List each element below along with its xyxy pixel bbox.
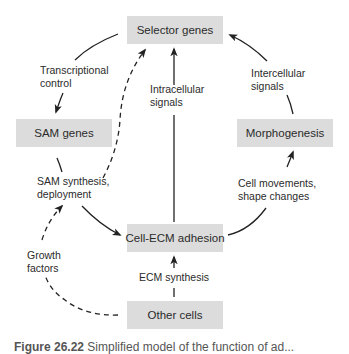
label-intercellular-signals: Intercellular signals [251,67,305,93]
dashed-growth-to-synthesis [42,206,62,240]
arrow-to-morphogenesis [287,152,293,167]
line-adhesion-to-cell-movements [228,208,266,235]
label-cell-movements: Cell movements, shape changes [238,177,316,203]
caption-text: Simplified model of the function of ad..… [84,340,294,354]
dashed-other-cells-to-growth [45,275,118,315]
label-transcriptional-control: Transcriptional control [40,64,108,90]
label-growth-factors: Growth factors [27,249,61,275]
line-sam-genes-to-synthesis [57,158,62,172]
arc-selector-to-transcriptional [75,34,118,60]
node-other-cells: Other cells [127,301,223,329]
arrow-synthesis-to-adhesion [82,206,120,235]
node-sam-genes: SAM genes [16,119,112,147]
label-sam-synthesis: SAM synthesis, deployment [37,175,109,201]
arrow-to-sam-genes [56,93,63,112]
arrow-intercellular-to-selector [230,35,267,61]
label-intracellular-signals: Intracellular signals [150,83,204,109]
node-selector-genes: Selector genes [127,16,223,44]
line-morphogenesis-to-intercellular [287,95,293,114]
figure-number: Figure 26.22 [14,340,84,354]
figure-caption: Figure 26.22 Simplified model of the fun… [14,340,294,354]
dashed-arrow-to-selector [103,50,145,178]
label-ecm-synthesis: ECM synthesis [139,271,209,284]
node-cell-ecm-adhesion: Cell-ECM adhesion [127,224,223,252]
node-morphogenesis: Morphogenesis [237,119,333,147]
